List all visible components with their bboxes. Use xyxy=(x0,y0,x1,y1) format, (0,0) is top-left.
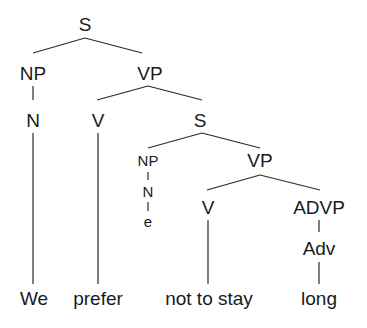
node-np-empty: NP xyxy=(138,153,159,168)
node-n-subject: N xyxy=(26,111,40,130)
node-n-empty: N xyxy=(143,184,154,199)
tree-edge xyxy=(202,133,260,148)
tree-edge xyxy=(85,38,142,53)
leaf-we: We xyxy=(20,289,48,308)
syntax-tree-diagram: S NP VP N V S NP VP N e V ADVP Adv We pr… xyxy=(0,0,367,328)
node-v-embedded: V xyxy=(202,198,215,217)
tree-edge xyxy=(148,133,202,148)
node-s-embedded: S xyxy=(194,111,207,130)
node-vp-embedded: VP xyxy=(247,151,272,170)
tree-edge xyxy=(207,175,260,190)
node-adv: Adv xyxy=(303,239,336,258)
node-vp-main: VP xyxy=(137,64,162,83)
tree-edge xyxy=(33,38,85,53)
tree-edge xyxy=(97,86,148,100)
node-v-main: V xyxy=(92,111,105,130)
tree-edge xyxy=(260,175,320,190)
tree-edges xyxy=(0,0,367,328)
node-s-root: S xyxy=(79,15,92,34)
tree-edge xyxy=(148,86,202,100)
leaf-not-to-stay: not to stay xyxy=(165,289,253,308)
node-np-subject: NP xyxy=(20,64,46,83)
leaf-prefer: prefer xyxy=(73,289,123,308)
node-advp: ADVP xyxy=(293,198,345,217)
leaf-long: long xyxy=(301,289,337,308)
node-empty-e: e xyxy=(144,214,152,229)
